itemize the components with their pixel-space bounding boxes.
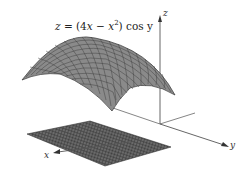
z-axis-label: z: [163, 8, 168, 18]
y-axis-label: y: [230, 140, 235, 150]
surface: [22, 37, 175, 111]
equation-label: z = (4x − x2) cos y: [55, 19, 153, 32]
figure-canvas: z = (4x − x2) cos y z y x: [0, 0, 243, 172]
axes-back: [113, 108, 195, 124]
y-axis: [160, 124, 229, 147]
z-axis: [158, 15, 162, 124]
x-axis-label: x: [44, 150, 49, 160]
